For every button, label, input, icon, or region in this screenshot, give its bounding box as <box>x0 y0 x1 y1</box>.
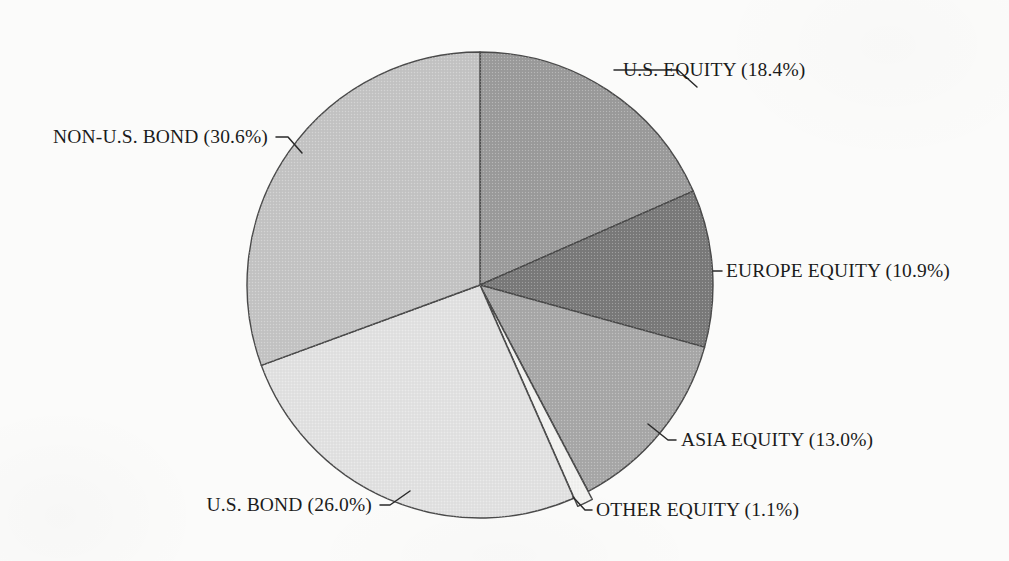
slice-label-other-equity: OTHER EQUITY (1.1%) <box>596 499 799 521</box>
slice-label-u-s-equity: U.S. EQUITY (18.4%) <box>623 59 805 81</box>
halftone-texture-group <box>247 52 713 518</box>
chart-page: U.S. EQUITY (18.4%)EUROPE EQUITY (10.9%)… <box>0 0 1009 561</box>
slice-label-non-u-s-bond: NON-U.S. BOND (30.6%) <box>53 126 268 148</box>
slice-label-asia-equity: ASIA EQUITY (13.0%) <box>681 429 873 451</box>
pie-chart: U.S. EQUITY (18.4%)EUROPE EQUITY (10.9%)… <box>0 0 1009 561</box>
slice-label-u-s-bond: U.S. BOND (26.0%) <box>206 494 372 516</box>
slice-label-europe-equity: EUROPE EQUITY (10.9%) <box>726 260 950 282</box>
